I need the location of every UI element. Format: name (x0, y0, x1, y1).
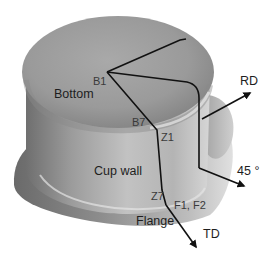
label-z7: Z7 (151, 190, 164, 202)
cup-bottom-shape (22, 16, 214, 128)
label-rd: RD (240, 74, 258, 88)
label-td: TD (203, 227, 220, 241)
cup-diagram: B1 Bottom B7 Z1 Cup wall Z7 F1, F2 Flang… (0, 0, 271, 258)
label-cup-wall: Cup wall (94, 164, 142, 178)
label-bottom: Bottom (54, 87, 94, 101)
label-f1-f2: F1, F2 (174, 199, 206, 211)
label-b7: B7 (132, 116, 145, 128)
label-45-deg: 45 ° (237, 164, 259, 178)
label-b1: B1 (93, 75, 106, 87)
label-flange: Flange (136, 214, 174, 228)
label-z1: Z1 (161, 131, 174, 143)
